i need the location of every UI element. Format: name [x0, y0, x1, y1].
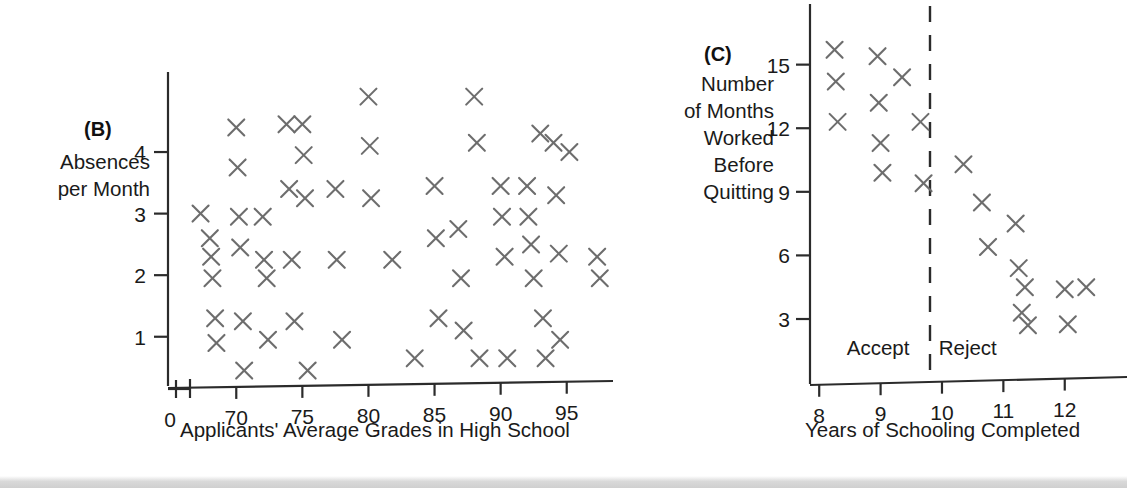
panel-c-y-tick-label-6: 6 — [778, 244, 790, 267]
panel-b-y-ticks — [154, 152, 168, 337]
panel-c-y-tick-label-9: 9 — [778, 181, 790, 204]
panel-c-x-axis — [810, 377, 1127, 385]
panel-c: (C) Numberof MonthsWorkedBeforeQuitting … — [660, 0, 1127, 488]
panel-c-y-ticks — [796, 65, 810, 319]
figure-canvas: (B) Absences per Month 12347075808590950… — [0, 0, 1127, 488]
panel-c-tick-labels: 369121589101112 — [767, 54, 1077, 427]
panel-b-y-tick-label-4: 4 — [134, 141, 146, 164]
panel-c-y-tick-label-12: 12 — [767, 117, 790, 140]
panel-c-plot: 369121589101112 — [660, 0, 1127, 440]
panel-c-accept-label: Accept — [847, 336, 910, 360]
panel-c-y-tick-label-15: 15 — [767, 54, 790, 77]
panel-c-y-tick-label-3: 3 — [778, 308, 790, 331]
panel-b-y-tick-label-1: 1 — [134, 326, 146, 349]
panel-b-x-axis-title: Applicants' Average Grades in High Schoo… — [180, 418, 570, 442]
page-bottom-edge — [0, 476, 1127, 488]
panel-b-plot: 12347075808590950 — [0, 0, 660, 440]
panel-b-y-tick-label-3: 3 — [134, 203, 146, 226]
panel-b-x-axis — [168, 381, 613, 388]
panel-b-x-tick-label-zero: 0 — [164, 408, 176, 431]
panel-b-data-points — [193, 89, 608, 379]
panel-c-reject-label: Reject — [939, 336, 997, 360]
panel-b: (B) Absences per Month 12347075808590950… — [0, 0, 660, 488]
panel-b-y-tick-label-2: 2 — [134, 264, 146, 287]
panel-c-x-axis-title: Years of Schooling Completed — [805, 418, 1080, 442]
panel-c-data-points — [827, 42, 1095, 334]
